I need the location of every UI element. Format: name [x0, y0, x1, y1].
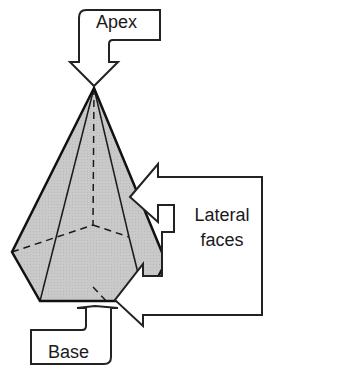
lateral-faces-label-line2: faces: [182, 228, 262, 253]
pyramid-diagram: [0, 0, 348, 373]
lateral-faces-label-line1: Lateral: [182, 203, 262, 228]
base-label: Base: [48, 342, 89, 362]
lateral-faces-label: Lateral faces: [182, 203, 262, 253]
apex-label: Apex: [96, 12, 137, 32]
